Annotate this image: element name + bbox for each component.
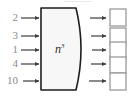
top-edge-artifact [64,1,92,2]
diagram-canvas: 2 3 1 4 10 n3 [0,0,128,99]
output-box-4 [110,57,126,73]
input-label-5: 10 [0,75,18,86]
block-label-exponent: 3 [61,42,65,50]
input-label-2: 3 [0,30,18,41]
output-boxes [110,9,126,90]
input-label-3: 1 [0,44,18,55]
input-label-1: 2 [0,12,18,23]
output-box-5 [110,73,126,90]
input-label-4: 4 [0,58,18,69]
output-box-1 [110,9,126,26]
output-arrows [89,18,106,81]
input-arrows [21,18,39,81]
block-complexity-label: n3 [55,43,65,55]
